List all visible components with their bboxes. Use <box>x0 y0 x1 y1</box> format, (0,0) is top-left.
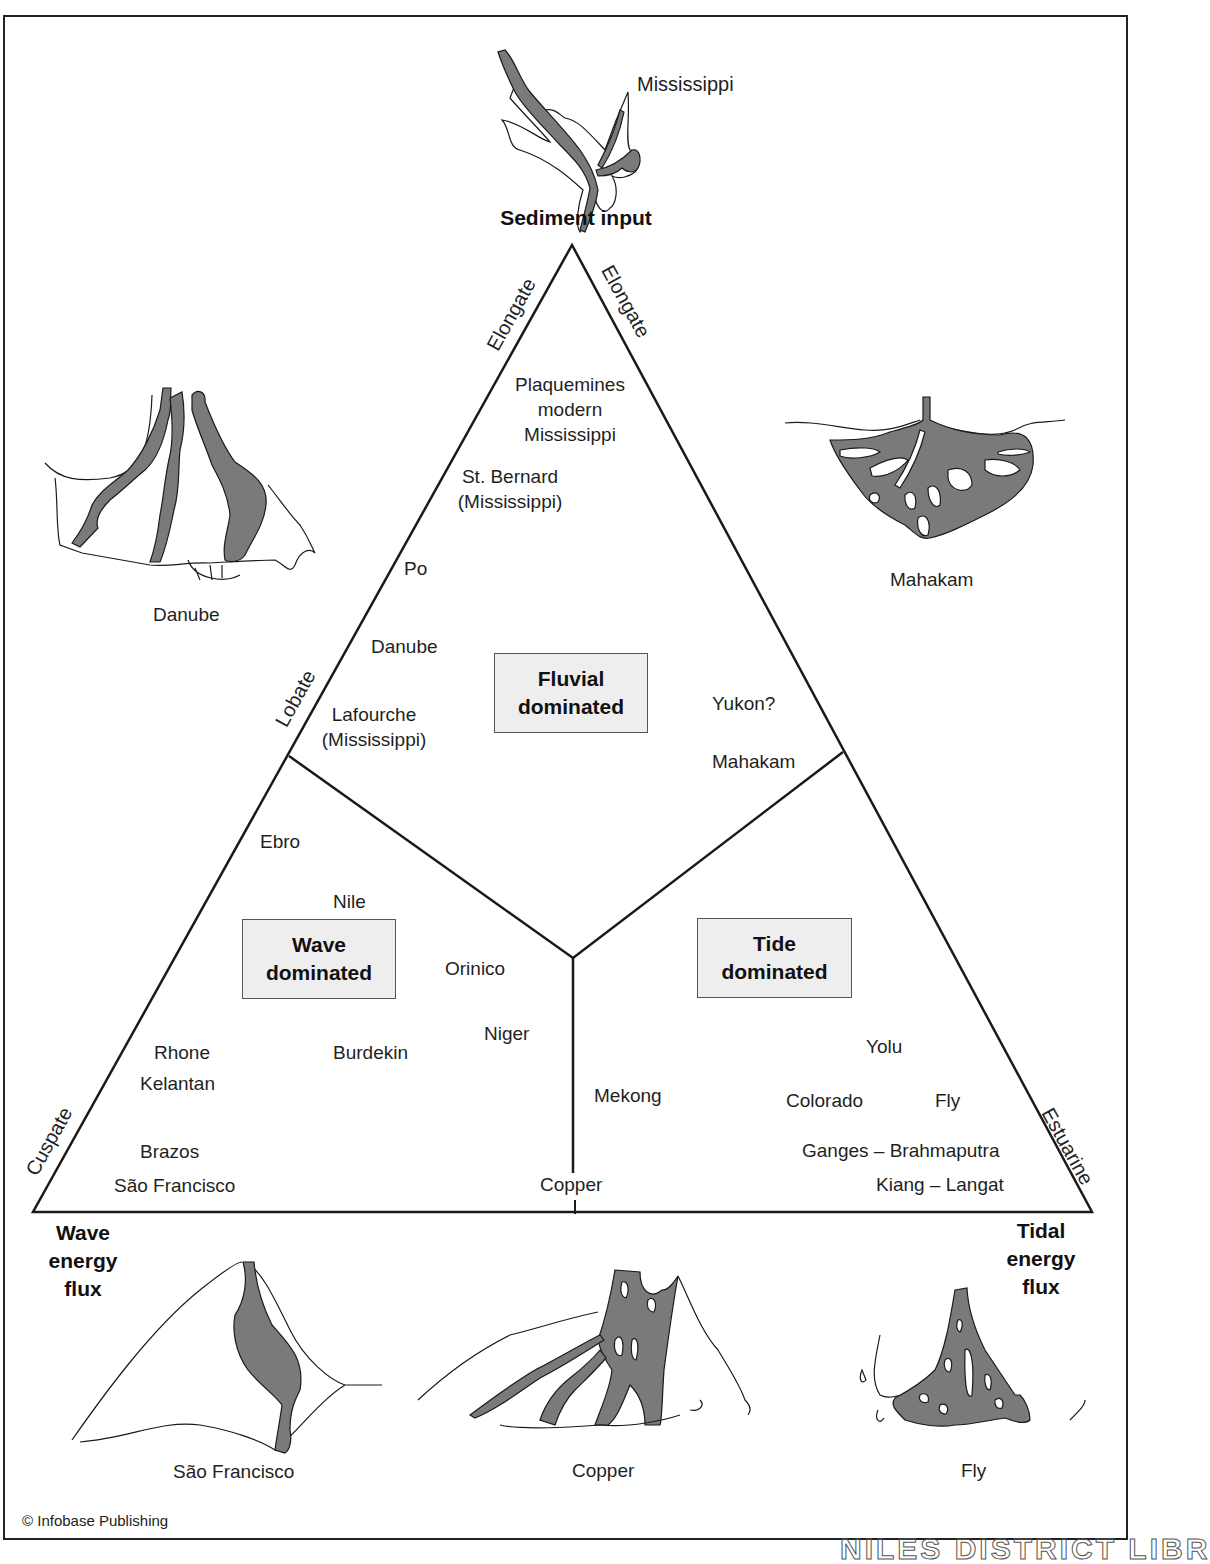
danube-delta-sketch <box>45 388 315 580</box>
vertex-label-tidal-energy-flux: Tidal energy flux <box>996 1217 1086 1301</box>
delta-label-yolu: Yolu <box>866 1034 902 1059</box>
delta-label-mekong: Mekong <box>594 1083 662 1108</box>
vertex-label-sediment-input: Sediment input <box>476 204 676 232</box>
fly-delta-sketch <box>860 1288 1085 1426</box>
delta-label-po: Po <box>404 556 427 581</box>
sketch-caption-danube: Danube <box>153 604 220 626</box>
region-box-wave-dominated: Wave dominated <box>242 919 396 999</box>
delta-label-ganges-brahmaputra: Ganges – Brahmaputra <box>802 1138 1000 1163</box>
delta-label-orinico: Orinico <box>445 956 505 981</box>
delta-label-niger: Niger <box>484 1021 529 1046</box>
vertex-label-wave-energy-flux: Wave energy flux <box>38 1219 128 1303</box>
delta-label-rhone: Rhone <box>154 1040 210 1065</box>
mahakam-delta-sketch <box>785 397 1065 538</box>
region-box-fluvial-dominated: Fluvial dominated <box>494 653 648 733</box>
delta-label-st-bernard: St. Bernard (Mississippi) <box>440 464 580 514</box>
sketch-caption-mississippi: Mississippi <box>637 72 734 97</box>
delta-label-mahakam: Mahakam <box>712 749 795 774</box>
delta-label-burdekin: Burdekin <box>333 1040 408 1065</box>
sketch-caption-copper: Copper <box>572 1460 634 1482</box>
sketch-caption-mahakam: Mahakam <box>890 569 973 591</box>
region-box-tide-dominated: Tide dominated <box>697 918 852 998</box>
delta-label-fly: Fly <box>935 1088 960 1113</box>
delta-label-colorado: Colorado <box>786 1088 863 1113</box>
sketch-caption-sao-francisco: São Francisco <box>173 1461 294 1483</box>
sketch-caption-fly: Fly <box>961 1460 986 1482</box>
delta-label-brazos: Brazos <box>140 1139 199 1164</box>
delta-label-plaquemines: Plaquemines modern Mississippi <box>490 372 650 447</box>
delta-label-ebro: Ebro <box>260 829 300 854</box>
copper-delta-sketch <box>418 1270 750 1428</box>
library-watermark: NILES DISTRICT LIBR <box>840 1532 1210 1564</box>
delta-label-kelantan: Kelantan <box>140 1071 215 1096</box>
copyright-credit: © Infobase Publishing <box>22 1512 168 1529</box>
delta-label-danube: Danube <box>371 634 438 659</box>
delta-label-sao-francisco: São Francisco <box>114 1173 235 1198</box>
delta-label-yukon: Yukon? <box>712 691 775 716</box>
delta-label-kiang-langat: Kiang – Langat <box>876 1172 1004 1197</box>
delta-label-lafourche: Lafourche (Mississippi) <box>306 702 442 752</box>
delta-label-nile: Nile <box>333 889 366 914</box>
delta-label-copper: Copper <box>540 1172 602 1197</box>
